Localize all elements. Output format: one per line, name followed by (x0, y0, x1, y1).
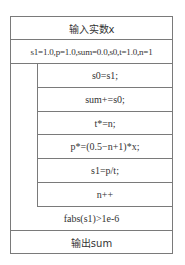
loop-step-6: n++ (38, 183, 172, 206)
output-step: 输出sum (11, 231, 172, 254)
loop-body: s0=s1; sum+=s0; t*=n; p*=(0.5−n+1)*x; s1… (37, 64, 172, 207)
input-step: 输入实数x (11, 17, 172, 40)
loop-condition: fabs(s1)>1e-6 (11, 207, 172, 230)
init-step: s1=1.0,p=1.0,sum=0.0,s0,t=1.0,n=1 (11, 40, 172, 64)
loop-step-3: t*=n; (38, 112, 172, 135)
do-while-loop: s0=s1; sum+=s0; t*=n; p*=(0.5−n+1)*x; s1… (11, 64, 172, 231)
ns-diagram: 输入实数x s1=1.0,p=1.0,sum=0.0,s0,t=1.0,n=1 … (10, 16, 173, 254)
loop-step-1: s0=s1; (38, 64, 172, 88)
loop-step-4: p*=(0.5−n+1)*x; (38, 135, 172, 159)
loop-step-2: sum+=s0; (38, 88, 172, 112)
loop-step-5: s1=p/t; (38, 159, 172, 183)
